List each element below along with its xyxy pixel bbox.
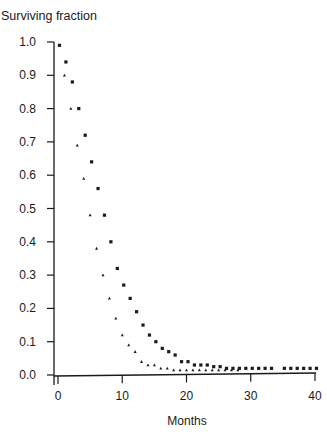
triangle-marker xyxy=(101,274,104,277)
square-series xyxy=(58,44,318,370)
square-marker xyxy=(219,365,222,368)
square-marker xyxy=(116,267,119,270)
square-marker xyxy=(129,297,132,300)
scatter-plot: 0.00.10.20.30.40.50.60.70.80.91.00102030… xyxy=(0,0,327,435)
triangle-marker xyxy=(127,343,130,346)
square-marker xyxy=(283,367,286,370)
square-marker xyxy=(302,367,305,370)
triangle-marker xyxy=(63,74,66,77)
x-axis-label: Months xyxy=(0,414,327,428)
square-marker xyxy=(148,333,151,336)
triangle-marker xyxy=(82,177,85,180)
axes: 0.00.10.20.30.40.50.60.70.80.91.00102030… xyxy=(19,35,322,403)
triangle-marker xyxy=(140,360,143,363)
square-marker xyxy=(96,187,99,190)
x-tick-label: 20 xyxy=(180,389,194,403)
square-marker xyxy=(257,367,260,370)
triangle-marker xyxy=(185,368,188,371)
square-marker xyxy=(71,80,74,83)
square-marker xyxy=(84,134,87,137)
triangle-marker xyxy=(204,368,207,371)
y-tick-label: 0.4 xyxy=(19,235,36,249)
square-marker xyxy=(212,365,215,368)
triangle-marker xyxy=(166,367,169,370)
square-marker xyxy=(161,347,164,350)
square-marker xyxy=(135,310,138,313)
triangle-marker xyxy=(179,368,182,371)
square-marker xyxy=(315,367,318,370)
square-marker xyxy=(90,160,93,163)
triangle-marker xyxy=(114,317,117,320)
y-tick-label: 0.6 xyxy=(19,168,36,182)
square-marker xyxy=(264,367,267,370)
triangle-marker xyxy=(217,368,220,371)
triangle-marker xyxy=(198,368,201,371)
y-tick-label: 1.0 xyxy=(19,35,36,49)
triangle-marker xyxy=(76,144,79,147)
y-tick-label: 0.2 xyxy=(19,301,36,315)
x-axis-line xyxy=(54,373,316,376)
square-marker xyxy=(180,360,183,363)
x-tick-label: 30 xyxy=(244,389,258,403)
square-marker xyxy=(64,60,67,63)
data-points xyxy=(58,44,318,371)
square-marker xyxy=(206,363,209,366)
triangle-marker xyxy=(146,363,149,366)
square-marker xyxy=(167,350,170,353)
x-tick-label: 10 xyxy=(116,389,130,403)
triangle-marker xyxy=(121,333,124,336)
square-marker xyxy=(154,340,157,343)
triangle-series xyxy=(63,74,239,372)
y-tick-label: 0.9 xyxy=(19,68,36,82)
triangle-marker xyxy=(153,363,156,366)
square-marker xyxy=(289,367,292,370)
square-marker xyxy=(109,240,112,243)
y-tick-label: 0.5 xyxy=(19,202,36,216)
x-tick-label: 0 xyxy=(55,389,62,403)
triangle-marker xyxy=(172,368,175,371)
triangle-marker xyxy=(89,214,92,217)
square-marker xyxy=(251,367,254,370)
square-marker xyxy=(122,283,125,286)
triangle-marker xyxy=(134,350,137,353)
square-marker xyxy=(308,367,311,370)
square-marker xyxy=(186,360,189,363)
y-tick-label: 0.3 xyxy=(19,268,36,282)
square-marker xyxy=(77,107,80,110)
square-marker xyxy=(244,367,247,370)
square-marker xyxy=(270,367,273,370)
triangle-marker xyxy=(191,368,194,371)
triangle-marker xyxy=(108,297,111,300)
square-marker xyxy=(174,353,177,356)
y-tick-label: 0.0 xyxy=(19,368,36,382)
y-tick-label: 0.8 xyxy=(19,102,36,116)
y-tick-label: 0.7 xyxy=(19,135,36,149)
x-tick-label: 40 xyxy=(308,389,322,403)
y-tick-label: 0.1 xyxy=(19,335,36,349)
square-marker xyxy=(199,363,202,366)
triangle-marker xyxy=(211,368,214,371)
square-marker xyxy=(193,363,196,366)
triangle-marker xyxy=(69,107,72,110)
square-marker xyxy=(141,323,144,326)
square-marker xyxy=(296,367,299,370)
square-marker xyxy=(103,214,106,217)
square-marker xyxy=(58,44,61,47)
triangle-marker xyxy=(95,247,98,250)
triangle-marker xyxy=(159,367,162,370)
